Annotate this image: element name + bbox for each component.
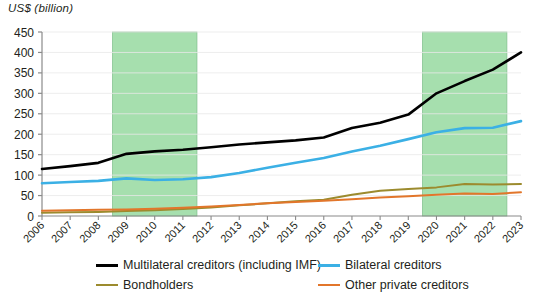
legend-row-1: Multilateral creditors (including IMF) B… — [96, 255, 528, 275]
plot-area: 050100150200250300350400450 200620072008… — [0, 0, 535, 255]
x-axis — [42, 216, 521, 220]
y-tick-label: 450 — [14, 26, 34, 40]
y-axis: 050100150200250300350400450 — [14, 26, 42, 224]
x-tick-label: 2015 — [274, 219, 300, 245]
x-tick-label: 2020 — [415, 219, 441, 245]
x-tick-label: 2022 — [471, 219, 497, 245]
x-tick-label: 2021 — [443, 219, 469, 245]
shaded-bands-group — [112, 32, 506, 216]
legend-row-2: Bondholders Other private creditors — [96, 275, 528, 295]
chart-container: US$ (billion) 05010015020025030035040045… — [0, 0, 535, 299]
x-tick-label: 2014 — [246, 219, 272, 245]
legend-swatch-bondholders — [96, 284, 118, 286]
legend-item-other-private-creditors: Other private creditors — [318, 278, 469, 292]
legend-label-multilateral-creditors: Multilateral creditors (including IMF) — [123, 258, 321, 272]
x-tick-label: 2016 — [302, 219, 328, 245]
x-tick-label: 2008 — [77, 219, 103, 245]
y-tick-label: 250 — [14, 107, 34, 121]
legend-swatch-other-private-creditors — [318, 284, 340, 286]
x-tick-label: 2019 — [387, 219, 413, 245]
x-tick-label: 2010 — [133, 219, 159, 245]
legend-swatch-bilateral-creditors — [318, 264, 340, 267]
legend-label-bilateral-creditors: Bilateral creditors — [345, 258, 442, 272]
chart-legend: Multilateral creditors (including IMF) B… — [96, 255, 528, 297]
y-tick-label: 0 — [27, 210, 34, 224]
legend-label-bondholders: Bondholders — [123, 278, 193, 292]
x-tick-label: 2012 — [190, 219, 216, 245]
legend-item-bondholders: Bondholders — [96, 278, 318, 292]
x-tick-label: 2011 — [162, 219, 187, 244]
x-tick-label: 2017 — [331, 219, 357, 245]
x-tick-labels-group: 2006200720082009201020112012201320142015… — [21, 219, 526, 245]
legend-swatch-multilateral-creditors — [96, 264, 118, 267]
x-tick-label: 2006 — [21, 219, 47, 245]
legend-item-multilateral-creditors: Multilateral creditors (including IMF) — [96, 258, 318, 272]
y-tick-label: 150 — [14, 148, 34, 162]
x-tick-label: 2013 — [218, 219, 244, 245]
legend-item-bilateral-creditors: Bilateral creditors — [318, 258, 442, 272]
x-tick-label: 2018 — [359, 219, 385, 245]
y-tick-label: 400 — [14, 46, 34, 60]
y-tick-label: 350 — [14, 66, 34, 80]
x-tick-label: 2023 — [500, 219, 526, 245]
y-tick-label: 50 — [21, 189, 35, 203]
x-tick-label: 2009 — [105, 219, 131, 245]
legend-label-other-private-creditors: Other private creditors — [345, 278, 469, 292]
x-tick-label: 2007 — [49, 219, 75, 245]
y-tick-label: 200 — [14, 128, 34, 142]
y-tick-label: 100 — [14, 169, 34, 183]
y-tick-label: 300 — [14, 87, 34, 101]
band-2009-2011 — [112, 32, 197, 216]
